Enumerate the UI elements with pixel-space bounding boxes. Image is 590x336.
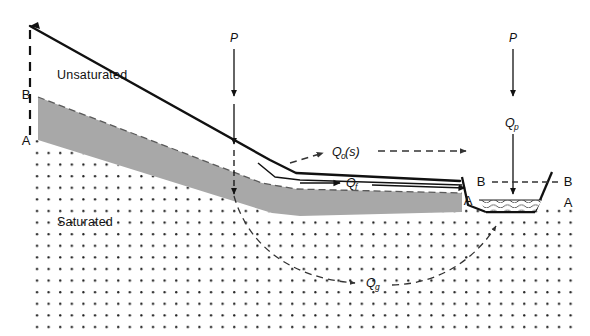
figure-root: Unsaturated Saturated B A A B B A P P Q … — [0, 0, 590, 336]
hillslope-cross-section-diagram: Unsaturated Saturated B A A B B A P P Q … — [0, 0, 590, 336]
flux-label-qp: Q p — [505, 116, 519, 132]
flux-qp-subscript: p — [513, 122, 519, 132]
saturated-zone-fill — [28, 138, 580, 334]
zone-label-unsaturated: Unsaturated — [57, 68, 127, 82]
throughflow-boundary-line — [258, 163, 462, 185]
horizon-marker-b-left: B — [22, 87, 31, 102]
zone-label-saturated: Saturated — [57, 215, 113, 229]
flux-qos-suffix: (s) — [345, 145, 360, 159]
horizon-marker-a-right-bank: A — [464, 193, 473, 208]
precipitation-label-hillslope: P — [230, 31, 238, 45]
horizon-marker-a-left: A — [22, 133, 31, 148]
overland-flow-arrow — [290, 151, 466, 163]
precipitation-label-channel: P — [509, 31, 517, 45]
horizon-marker-a-right-channel: A — [564, 195, 573, 210]
flux-label-qos: Q o (s) — [332, 145, 360, 161]
flux-label-qf: Q f — [346, 176, 359, 192]
horizon-marker-b-left-channel: B — [477, 174, 486, 189]
horizon-marker-b-right-channel: B — [564, 174, 573, 189]
flux-qg-subscript: g — [375, 282, 380, 292]
